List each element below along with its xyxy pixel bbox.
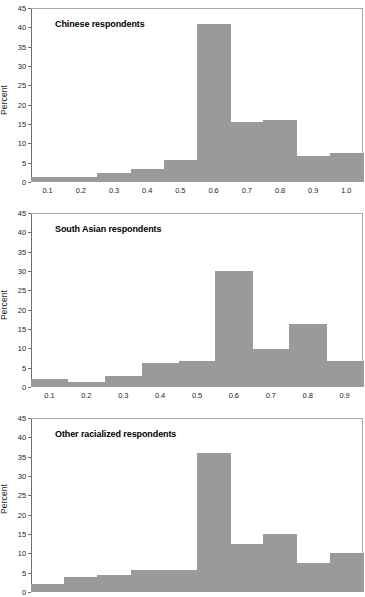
histogram-bar — [197, 361, 216, 387]
x-axis-tick-label: 0.9 — [333, 391, 357, 400]
x-axis-tick-label: 0.5 — [185, 391, 209, 400]
y-axis-tick-label: 35 — [10, 247, 26, 256]
histogram-bar — [97, 173, 114, 182]
y-axis-tick-label: 40 — [10, 23, 26, 32]
histogram-bar — [48, 584, 65, 593]
histogram-bar — [289, 324, 308, 387]
y-axis-tick-mark — [28, 232, 31, 233]
histogram-bar — [164, 160, 181, 182]
x-axis-tick-label: 0.9 — [301, 186, 325, 195]
y-axis-tick-mark — [28, 47, 31, 48]
x-axis-tick-label: 0.4 — [148, 391, 172, 400]
y-axis-tick-label: 20 — [10, 305, 26, 314]
histogram-bar — [230, 122, 247, 182]
y-axis-tick-label: 30 — [10, 472, 26, 481]
plot-frame-top — [31, 213, 363, 214]
panel-title: Other racialized respondents — [55, 429, 176, 439]
histogram-bar — [313, 563, 330, 592]
x-axis-tick-label: 0.8 — [296, 391, 320, 400]
y-axis-tick-label: 0 — [10, 588, 26, 597]
y-axis-tick-mark — [28, 534, 31, 535]
y-axis-tick-label: 5 — [10, 158, 26, 167]
y-axis-tick-mark — [28, 252, 31, 253]
histogram-bar — [31, 379, 50, 387]
y-axis-tick-label: 25 — [10, 81, 26, 90]
histogram-bar — [81, 177, 98, 182]
y-axis-tick-mark — [28, 310, 31, 311]
x-axis-tick-label: 0.1 — [36, 186, 60, 195]
y-axis-tick-mark — [28, 515, 31, 516]
histogram-bar — [346, 153, 363, 182]
y-axis-tick-mark — [28, 348, 31, 349]
y-axis-tick-mark — [28, 553, 31, 554]
y-axis-tick-label: 25 — [10, 491, 26, 500]
histogram-bar — [330, 553, 347, 592]
histogram-bar — [345, 361, 364, 387]
plot-area-wrapper: 0510152025303540450.10.20.30.40.50.60.70… — [31, 8, 363, 182]
y-axis-tick-label: 20 — [10, 100, 26, 109]
histogram-bar — [180, 570, 197, 592]
y-axis-line — [31, 418, 32, 592]
histogram-bar — [48, 177, 65, 182]
y-axis-tick-label: 0 — [10, 178, 26, 187]
histogram-bar — [308, 324, 327, 387]
chart-panel-south-asian-respondents: Percent 0510152025303540450.10.20.30.40.… — [0, 205, 365, 405]
y-axis-tick-label: 10 — [10, 139, 26, 148]
y-axis-tick-mark — [28, 182, 31, 183]
y-axis-tick-mark — [28, 418, 31, 419]
histogram-bar — [326, 361, 345, 387]
y-axis-label: Percent — [0, 72, 9, 128]
y-axis-tick-label: 25 — [10, 286, 26, 295]
plot-area-wrapper: 0510152025303540450.10.20.30.40.50.60.70… — [31, 213, 363, 387]
y-axis-tick-label: 5 — [10, 363, 26, 372]
panel-title: South Asian respondents — [55, 224, 161, 234]
histogram-bar — [263, 120, 280, 182]
histogram-bar — [147, 570, 164, 592]
histogram-bar — [180, 160, 197, 182]
y-axis-tick-mark — [28, 368, 31, 369]
x-axis-tick-label: 0.2 — [69, 186, 93, 195]
y-axis-tick-mark — [28, 290, 31, 291]
y-axis-tick-mark — [28, 437, 31, 438]
y-axis-tick-label: 10 — [10, 549, 26, 558]
histogram-bar — [330, 153, 347, 182]
histogram-bar — [64, 577, 81, 592]
y-axis-tick-label: 45 — [10, 209, 26, 218]
y-axis-tick-mark — [28, 8, 31, 9]
y-axis-tick-mark — [28, 105, 31, 106]
histogram-bar — [164, 570, 181, 592]
y-axis-tick-mark — [28, 457, 31, 458]
y-axis-tick-mark — [28, 387, 31, 388]
histogram-bar — [160, 363, 179, 387]
y-axis-tick-mark — [28, 85, 31, 86]
y-axis-tick-mark — [28, 495, 31, 496]
histogram-bar — [68, 382, 87, 387]
histogram-bar — [214, 24, 231, 182]
histogram-bar — [297, 156, 314, 182]
y-axis-tick-label: 45 — [10, 414, 26, 423]
x-axis-tick-label: 0.1 — [37, 391, 61, 400]
plot-area: 051015202530354045Other racialized respo… — [31, 418, 363, 592]
x-axis-tick-label: 0.6 — [222, 391, 246, 400]
histogram-bar — [123, 376, 142, 387]
x-axis-tick-label: 0.6 — [202, 186, 226, 195]
y-axis-tick-label: 40 — [10, 433, 26, 442]
histogram-bar — [31, 177, 48, 182]
histogram-bar — [280, 120, 297, 182]
y-axis-tick-label: 0 — [10, 383, 26, 392]
x-axis-tick-label: 0.7 — [235, 186, 259, 195]
histogram-bar — [114, 575, 131, 592]
x-axis-tick-label: 0.7 — [259, 391, 283, 400]
histogram-bar — [234, 271, 253, 387]
histogram-bar — [247, 544, 264, 592]
y-axis-tick-mark — [28, 476, 31, 477]
y-axis-label: Percent — [0, 471, 9, 527]
chart-panel-other-racialized-respondents: Percent 051015202530354045Other racializ… — [0, 410, 365, 588]
histogram-bar — [31, 584, 48, 593]
x-axis-tick-label: 0.3 — [102, 186, 126, 195]
histogram-bar — [280, 534, 297, 592]
histogram-bar — [215, 271, 234, 387]
histogram-bar — [197, 24, 214, 182]
y-axis-tick-label: 40 — [10, 228, 26, 237]
